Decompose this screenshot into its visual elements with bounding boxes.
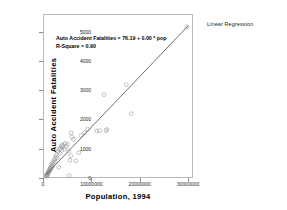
- y-tick-mark: [39, 149, 43, 150]
- scatter-point: [129, 112, 133, 116]
- y-axis-title: Auto Accident Fatalities: [49, 58, 58, 153]
- y-tick-label: 5000: [80, 29, 91, 35]
- y-tick-label: 3000: [80, 87, 91, 93]
- y-tick-mark: [39, 61, 43, 62]
- y-tick-label: 1000: [80, 146, 91, 152]
- plot-area: Auto Accident Fatalities = 76.19 + 0.00 …: [43, 14, 193, 178]
- scatter-point: [74, 159, 78, 163]
- scatter-point: [105, 128, 109, 132]
- y-tick-mark: [39, 119, 43, 120]
- scatter-point: [69, 131, 73, 135]
- scatter-point: [185, 25, 189, 29]
- x-tick-mark: [91, 178, 92, 182]
- linear-regression-chart: Linear Regression Auto Accident Fataliti…: [0, 0, 287, 210]
- scatter-point: [67, 174, 71, 178]
- x-tick-mark: [188, 178, 189, 182]
- regression-annotation: Auto Accident Fatalities = 76.19 + 0.00 …: [56, 35, 167, 50]
- x-tick-mark: [140, 178, 141, 182]
- scatter-point: [102, 93, 106, 97]
- y-tick-mark: [39, 32, 43, 33]
- scatter-point: [68, 158, 72, 162]
- scatter-point: [104, 129, 108, 133]
- scatter-point: [124, 83, 128, 87]
- r-square-line: R-Square = 0.90: [56, 43, 167, 51]
- scatter-point: [69, 154, 73, 158]
- scatter-point: [57, 165, 61, 169]
- x-axis-title: Population, 1994: [43, 192, 193, 201]
- y-tick-mark: [39, 90, 43, 91]
- y-tick-label: 4000: [80, 58, 91, 64]
- chart-corner-title: Linear Regression: [207, 21, 253, 27]
- y-tick-label: 2000: [80, 116, 91, 122]
- regression-equation-line: Auto Accident Fatalities = 76.19 + 0.00 …: [56, 35, 167, 43]
- x-tick-mark: [43, 178, 44, 182]
